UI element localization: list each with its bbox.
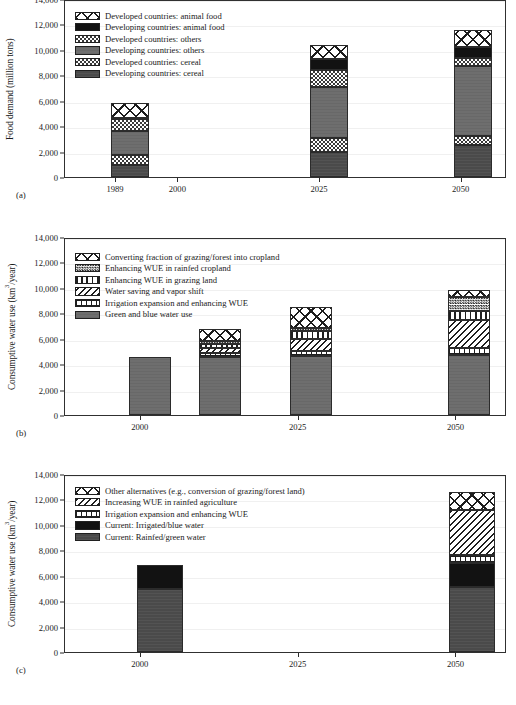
legend-swatch-icon xyxy=(75,287,100,295)
x-tick-label: 2025 xyxy=(289,422,306,432)
grid-line xyxy=(65,1,505,2)
legend-label: Water saving and vapor shift xyxy=(105,287,204,296)
panel-b-y-ticks: 02,0004,0006,0008,00010,00012,00014,000 xyxy=(18,238,64,416)
x-tick-label: 2025 xyxy=(289,659,306,669)
bar-segment xyxy=(290,356,332,415)
x-tick-mark xyxy=(298,416,299,420)
bar-segment xyxy=(137,565,183,589)
legend-swatch-icon xyxy=(75,253,100,261)
bar-segment xyxy=(310,59,348,70)
y-tick-label: 12,000 xyxy=(34,258,58,268)
panel-c-y-axis-label: Consumptive water use (km3/year) xyxy=(2,475,18,653)
legend-item[interactable]: Enhancing WUE in grazing land xyxy=(75,274,279,286)
y-tick-label: 10,000 xyxy=(34,284,58,294)
legend-swatch-icon xyxy=(75,58,100,66)
legend-swatch-icon xyxy=(75,264,100,272)
legend-item[interactable]: Developing countries: animal food xyxy=(75,22,225,34)
legend-label: Developing countries: others xyxy=(105,46,204,55)
legend-item[interactable]: Developing countries: others xyxy=(75,45,225,57)
x-tick-mark xyxy=(140,416,141,420)
legend-item[interactable]: Developed countries: animal food xyxy=(75,10,225,22)
bar-2050 xyxy=(454,30,492,177)
bar-segment xyxy=(449,555,495,563)
legend-item[interactable]: Current: Irrigated/blue water xyxy=(75,520,305,532)
legend-item[interactable]: Irrigation expansion and enhancing WUE xyxy=(75,508,305,520)
y-tick-label: 6,000 xyxy=(39,572,58,582)
panel-a-tag: (a) xyxy=(16,190,26,200)
bar-2012 xyxy=(199,329,241,415)
panel-c-legend: Other alternatives (e.g., conversion of … xyxy=(75,485,305,543)
bar-segment xyxy=(290,351,332,356)
legend-swatch-icon xyxy=(75,510,100,518)
legend-item[interactable]: Green and blue water use xyxy=(75,309,279,321)
bar-segment xyxy=(310,138,348,153)
panel-b-y-axis-label: Consumptive water use (km3/year) xyxy=(2,238,18,416)
y-tick-label: 8,000 xyxy=(39,309,58,319)
y-tick-label: 12,000 xyxy=(34,20,58,30)
bar-segment xyxy=(111,103,149,118)
x-tick-label: 1989 xyxy=(106,184,123,194)
legend-item[interactable]: Developed countries: others xyxy=(75,33,225,45)
bar-segment xyxy=(448,297,490,312)
bar-segment xyxy=(449,492,495,509)
bar-segment xyxy=(454,58,492,67)
x-tick-label: 2000 xyxy=(169,184,186,194)
bar-segment xyxy=(448,355,490,415)
legend-label: Increasing WUE in rainfed agriculture xyxy=(105,498,237,507)
panel-a-y-ticks: 02,0004,0006,0008,00010,00012,00014,000 xyxy=(18,0,64,178)
panel-b-tag: (b) xyxy=(16,428,26,438)
legend-item[interactable]: Developing countries: cereal xyxy=(75,68,225,80)
bar-segment xyxy=(449,510,495,556)
legend-item[interactable]: Irrigation expansion and enhancing WUE xyxy=(75,297,279,309)
legend-swatch-icon xyxy=(75,498,100,506)
legend-item[interactable]: Other alternatives (e.g., conversion of … xyxy=(75,485,305,497)
legend-swatch-icon xyxy=(75,70,100,78)
legend-item[interactable]: Water saving and vapor shift xyxy=(75,286,279,298)
grid-line xyxy=(65,341,505,342)
panel-c: Consumptive water use (km3/year) 02,0004… xyxy=(0,475,516,705)
legend-item[interactable]: Enhancing WUE in rainfed cropland xyxy=(75,263,279,275)
x-tick-label: 2025 xyxy=(310,184,327,194)
legend-label: Enhancing WUE in grazing land xyxy=(105,276,217,285)
panel-a-legend: Developed countries: animal foodDevelopi… xyxy=(75,10,225,80)
legend-label: Current: Rainfed/green water xyxy=(105,533,206,542)
bar-segment xyxy=(137,589,183,652)
bar-2050 xyxy=(448,290,490,415)
legend-swatch-icon xyxy=(75,487,100,495)
bar-2000 xyxy=(129,357,171,415)
legend-item[interactable]: Current: Rainfed/green water xyxy=(75,531,305,543)
panel-b-legend: Converting fraction of grazing/forest in… xyxy=(75,251,279,321)
bar-segment xyxy=(111,131,149,155)
bar-segment xyxy=(454,136,492,145)
legend-item[interactable]: Increasing WUE in rainfed agriculture xyxy=(75,497,305,509)
y-tick-label: 14,000 xyxy=(34,233,58,243)
x-tick-mark xyxy=(319,178,320,182)
bar-segment xyxy=(290,307,332,328)
bar-segment xyxy=(448,348,490,356)
panel-c-y-axis-label-text: Consumptive water use (km3/year) xyxy=(3,501,16,627)
y-tick-label: 2,000 xyxy=(39,386,58,396)
bar-segment xyxy=(448,320,490,348)
legend-label: Developing countries: cereal xyxy=(105,69,204,78)
legend-item[interactable]: Converting fraction of grazing/forest in… xyxy=(75,251,279,263)
grid-line xyxy=(65,578,505,579)
legend-label: Converting fraction of grazing/forest in… xyxy=(105,253,279,262)
x-tick-mark xyxy=(461,178,462,182)
bar-segment xyxy=(199,344,241,348)
y-tick-label: 6,000 xyxy=(39,335,58,345)
x-tick-label: 2050 xyxy=(452,184,469,194)
bar-segment xyxy=(310,152,348,177)
y-tick-label: 12,000 xyxy=(34,495,58,505)
legend-label: Other alternatives (e.g., conversion of … xyxy=(105,487,305,496)
bar-1989 xyxy=(111,103,149,177)
x-tick-label: 2000 xyxy=(131,659,148,669)
bar-segment xyxy=(199,348,241,353)
panel-c-tag: (c) xyxy=(16,665,26,675)
y-tick-label: 4,000 xyxy=(39,597,58,607)
x-tick-label: 2050 xyxy=(447,422,464,432)
bar-segment xyxy=(449,587,495,652)
legend-label: Irrigation expansion and enhancing WUE xyxy=(105,299,248,308)
grid-line xyxy=(65,476,505,477)
bar-segment xyxy=(454,47,492,57)
legend-item[interactable]: Developed countries: cereal xyxy=(75,56,225,68)
